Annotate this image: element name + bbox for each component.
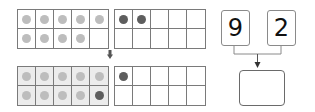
number-box-right: 2 [267, 10, 296, 46]
number-box-left: 9 [221, 10, 250, 46]
arrow-down-icon [255, 62, 261, 68]
answer-box[interactable] [239, 70, 285, 106]
